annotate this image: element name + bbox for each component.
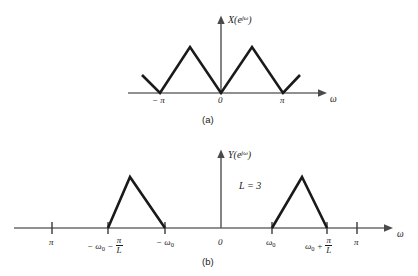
panel-b-signal-label-base: Y(e xyxy=(228,149,241,160)
panel-a-signal-label: X(ejω) xyxy=(228,15,252,25)
panel-a-x-axis-label: ω xyxy=(330,95,337,105)
panel-b-tick-0-main: − ω xyxy=(87,241,102,251)
panel-b-tick-0-fraction-denominator: L xyxy=(116,246,123,255)
panel-b-caption: (b) xyxy=(202,257,214,267)
panel-b-tick-0-fraction: πL xyxy=(116,236,123,256)
panel-b-tick-1-main: − ω xyxy=(156,237,171,247)
panel-b-signal-label-close: ) xyxy=(248,149,251,160)
panel-b-tick-label-minus-pi-edge: π xyxy=(49,238,54,247)
panel-b-tick-label-minus-w0: − ω0 xyxy=(156,238,174,248)
panel-a-tick-label-pi: π xyxy=(280,96,285,105)
panel-b-tick-label-zero: 0 xyxy=(218,238,223,247)
panel-b-x-axis-arrowhead xyxy=(384,224,393,232)
panel-a-y-axis-arrowhead xyxy=(217,16,224,25)
panel-b-x-axis-label: ω xyxy=(397,230,404,240)
panel-a-signal-label-base: X(e xyxy=(228,14,242,25)
panel-b-tick-3-subscript: 0 xyxy=(272,241,275,248)
panel-b-left-lobe-trace xyxy=(108,177,165,228)
panel-b-tick-0-operator: − xyxy=(105,241,116,251)
panel-a-x-axis-arrowhead xyxy=(318,89,327,97)
panel-b-annotation-L: L = 3 xyxy=(239,181,261,191)
panel-b-tick-label-w0: ω0 xyxy=(266,238,276,248)
panel-b-signal-label: Y(ejω) xyxy=(228,150,251,160)
panel-b-right-lobe-trace xyxy=(272,177,327,228)
figure-container: X(ejω) − π 0 π ω (a) Y(ejω) L = 3 π − ω0… xyxy=(0,0,418,276)
panel-b-y-axis-arrowhead xyxy=(217,150,224,159)
panel-b-tick-4-fraction-denominator: L xyxy=(325,246,332,255)
panel-a-tick-label-zero: 0 xyxy=(218,96,223,105)
panel-a-caption: (a) xyxy=(202,115,214,125)
panel-b-tick-label-pi-edge: π xyxy=(354,238,359,247)
panel-a-tick-label-minus-pi: − π xyxy=(152,96,165,105)
panel-b-tick-1-subscript: 0 xyxy=(171,241,174,248)
panel-a-signal-label-close: ) xyxy=(248,14,251,25)
panel-b-group xyxy=(14,150,393,235)
panel-b-tick-4-operator: + xyxy=(315,241,326,251)
panel-a-group xyxy=(128,16,327,97)
figure-svg xyxy=(0,0,418,276)
panel-b-tick-label-minus-w0-minus-piL: − ω0 − πL xyxy=(87,236,123,256)
panel-b-tick-4-fraction: πL xyxy=(325,236,332,256)
panel-b-tick-label-w0-plus-piL: ω0 + πL xyxy=(305,236,332,256)
